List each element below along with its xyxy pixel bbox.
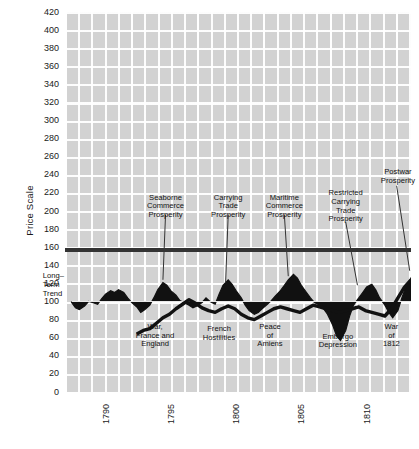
annotation-war-france-and-england: War, France and England xyxy=(121,323,189,349)
y-tick-180: 180 xyxy=(31,225,59,234)
x-tick-1810: 1810 xyxy=(363,404,372,424)
annotation-leader-line-0 xyxy=(163,215,166,280)
annotation-leader-line-2 xyxy=(284,215,288,277)
annotation-leader-line-3 xyxy=(346,222,358,285)
annotation-postwar-prosperity: Postwar Prosperity xyxy=(364,168,419,185)
y-tick-340: 340 xyxy=(31,80,59,89)
x-axis-tick-labels: 17901795180018051810 xyxy=(65,396,411,446)
y-tick-0: 0 xyxy=(31,388,59,397)
x-tick-1795: 1795 xyxy=(167,404,176,424)
annotation-peace-of-amiens: Peace of Amiens xyxy=(236,323,304,349)
y-tick-300: 300 xyxy=(31,116,59,125)
y-tick-40: 40 xyxy=(31,351,59,360)
y-tick-240: 240 xyxy=(31,170,59,179)
x-tick-1790: 1790 xyxy=(102,404,111,424)
y-tick-20: 20 xyxy=(31,369,59,378)
y-tick-140: 140 xyxy=(31,261,59,270)
annotation-seaborne-commerce-prosperity: Seaborne Commerce Prosperity xyxy=(132,194,200,220)
x-tick-1800: 1800 xyxy=(232,404,241,424)
x-tick-1805: 1805 xyxy=(297,404,306,424)
y-tick-160: 160 xyxy=(31,243,59,252)
y-tick-200: 200 xyxy=(31,207,59,216)
annotation-restricted-carrying-trade-prosperity: Restricted Carrying Trade Prosperity xyxy=(312,189,380,223)
y-tick-280: 280 xyxy=(31,134,59,143)
annotation-long-term-trend: Long– Term Trend xyxy=(43,272,111,298)
annotation-war-of-1812: War of 1812 xyxy=(357,323,419,349)
y-tick-420: 420 xyxy=(31,8,59,17)
y-tick-80: 80 xyxy=(31,315,59,324)
price-scale-chart: Price Scale 4204003803603403203002802602… xyxy=(0,0,419,449)
y-tick-380: 380 xyxy=(31,44,59,53)
y-tick-100: 100 xyxy=(31,297,59,306)
y-tick-220: 220 xyxy=(31,188,59,197)
y-tick-360: 360 xyxy=(31,62,59,71)
y-tick-260: 260 xyxy=(31,152,59,161)
y-tick-400: 400 xyxy=(31,26,59,35)
annotation-maritime-commerce-prosperity: Maritime Commerce Prosperity xyxy=(250,194,318,220)
annotation-leader-line-4 xyxy=(397,186,410,271)
y-tick-320: 320 xyxy=(31,98,59,107)
y-axis-tick-labels: 4204003803603403203002802602402202001801… xyxy=(31,0,59,449)
y-tick-60: 60 xyxy=(31,333,59,342)
